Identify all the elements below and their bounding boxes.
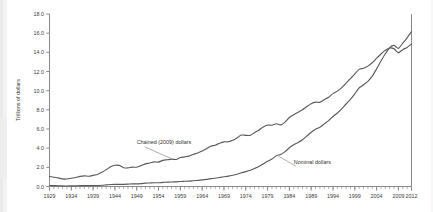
x-axis-tick-label: 2012 — [406, 193, 418, 199]
x-axis-tick-label: 1989 — [305, 193, 317, 199]
x-axis-tick-label: 1964 — [196, 193, 208, 199]
y-axis-tick-label: 2.0 — [37, 164, 45, 170]
x-axis-tick-label: 1954 — [153, 193, 165, 199]
y-axis-tick-label: 0.0 — [37, 184, 45, 190]
x-axis-tick-label: 1984 — [283, 193, 295, 199]
y-axis-tick-label: 16.0 — [34, 30, 45, 36]
x-axis-tick-label: 1944 — [109, 193, 121, 199]
series-line-nominal-dollars — [50, 32, 412, 186]
series-line-chained-2009-dollars — [50, 44, 412, 179]
y-axis-tick-label: 18.0 — [34, 11, 45, 17]
x-axis-tick-label: 1999 — [349, 193, 361, 199]
y-axis-tick-label: 6.0 — [37, 126, 45, 132]
x-axis-tick-label: 2009 — [392, 193, 404, 199]
annotation-leader-line-chained — [145, 147, 172, 159]
y-axis-title: Trillions of dollars — [15, 79, 21, 121]
y-axis-tick-labels: 18.016.014.012.010.08.06.04.02.00.0 — [34, 11, 45, 190]
y-axis-tick-label: 12.0 — [34, 69, 45, 75]
y-axis-tick-label: 8.0 — [37, 107, 45, 113]
x-axis-tick-label: 1959 — [174, 193, 186, 199]
y-axis-tick-label: 10.0 — [34, 88, 45, 94]
x-axis-tick-label: 1949 — [131, 193, 143, 199]
gdp-line-chart-figure: 18.016.014.012.010.08.06.04.02.00.0 1929… — [0, 0, 433, 212]
y-axis-tick-label: 14.0 — [34, 49, 45, 55]
y-axis-tick-label: 4.0 — [37, 145, 45, 151]
x-axis-tick-label: 2004 — [371, 193, 383, 199]
x-axis-tick-labels: 1929193419391944194919541959196419691974… — [44, 193, 418, 199]
x-axis-tick-label: 1969 — [218, 193, 230, 199]
annotation-label-chained-2009-dollars: Chained (2009) dollars — [137, 139, 192, 145]
x-axis-tick-label: 1974 — [240, 193, 252, 199]
chart-canvas: 18.016.014.012.010.08.06.04.02.00.0 1929… — [0, 0, 433, 212]
annotation-label-nominal-dollars: Nominal dollars — [294, 159, 331, 165]
x-axis-tick-marks — [50, 187, 412, 191]
x-axis-tick-label: 1929 — [44, 193, 56, 199]
x-axis-tick-label: 1934 — [65, 193, 77, 199]
x-axis-tick-label: 1994 — [327, 193, 339, 199]
x-axis-tick-label: 1979 — [262, 193, 274, 199]
x-axis-tick-label: 1939 — [87, 193, 99, 199]
